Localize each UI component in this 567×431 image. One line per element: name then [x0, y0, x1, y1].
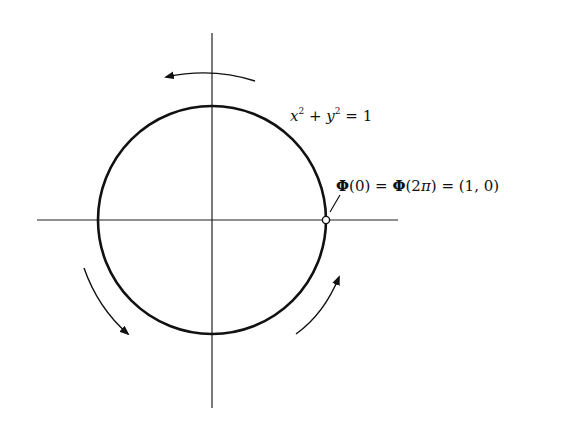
label-eq-1: =	[370, 177, 392, 195]
unit-circle-diagram: x2 + y2 = 1 Φ(0) = Φ(2π) = (1, 0)	[0, 0, 567, 431]
label-arg-1: (0)	[349, 177, 370, 195]
diagram-canvas: x2 + y2 = 1 Φ(0) = Φ(2π) = (1, 0)	[0, 0, 567, 431]
point-label: Φ(0) = Φ(2π) = (1, 0)	[336, 177, 499, 195]
point-leader-line	[330, 195, 340, 212]
label-arg-2-open: (2	[406, 177, 421, 195]
circle-equation-label: x2 + y2 = 1	[290, 106, 372, 125]
label-value: (1, 0)	[459, 177, 499, 195]
label-eq-2: =	[437, 177, 459, 195]
lower-right-arrow-icon	[296, 277, 339, 334]
eq-equals: = 1	[341, 107, 373, 125]
lower-left-arrow-icon	[84, 268, 128, 334]
top-arrow-icon	[166, 73, 255, 81]
eq-plus: +	[304, 107, 326, 125]
label-phi-1: Φ	[336, 177, 349, 195]
label-phi-2: Φ	[392, 177, 405, 195]
marked-point	[322, 216, 329, 223]
